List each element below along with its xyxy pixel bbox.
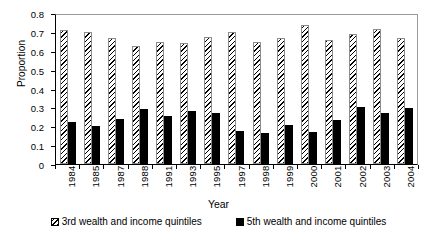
bar-5th-quintile [381, 113, 389, 164]
bar-group [128, 15, 152, 164]
bar-5th-quintile [333, 120, 341, 164]
bar-group [152, 15, 176, 164]
bar-5th-quintile [212, 113, 220, 164]
legend-swatch-solid-icon [236, 218, 244, 226]
bar-3rd-quintile [60, 30, 68, 164]
bar-3rd-quintile [397, 38, 405, 164]
bar-3rd-quintile [349, 34, 357, 164]
plot-area [55, 14, 418, 165]
bar-group [345, 15, 369, 164]
y-tick-label: 0.6 [31, 46, 44, 57]
bar-group [176, 15, 200, 164]
x-tick-label: 2001 [332, 166, 343, 188]
x-axis-title: Year [0, 198, 437, 210]
bar-group [249, 15, 273, 164]
bar-5th-quintile [116, 119, 124, 164]
y-tick-mark [51, 127, 55, 128]
y-tick-label: 0.7 [31, 27, 44, 38]
bar-3rd-quintile [301, 25, 309, 164]
legend-label: 3rd wealth and income quintiles [62, 216, 202, 227]
bar-group [273, 15, 297, 164]
y-tick-label: 0.5 [31, 65, 44, 76]
x-tick-label: 1997 [235, 166, 246, 188]
y-tick-mark [51, 90, 55, 91]
legend-swatch-hatched-icon [51, 218, 59, 226]
bar-group [297, 15, 321, 164]
bar-3rd-quintile [180, 43, 188, 164]
y-tick-label: 0 [39, 160, 44, 171]
bar-3rd-quintile [84, 32, 92, 164]
bar-5th-quintile [357, 107, 365, 164]
x-axis-tick-labels: 1984198519871988199119931995199719981999… [55, 168, 418, 200]
x-tick-label: 1995 [211, 166, 222, 188]
bar-5th-quintile [188, 111, 196, 164]
y-tick-label: 0.1 [31, 141, 44, 152]
x-tick-label: 1988 [138, 166, 149, 188]
bar-group [104, 15, 128, 164]
x-tick-label: 1987 [114, 166, 125, 188]
bar-3rd-quintile [204, 37, 212, 164]
bar-group [321, 15, 345, 164]
bar-3rd-quintile [132, 46, 140, 164]
bar-5th-quintile [309, 132, 317, 164]
x-tick-label: 2000 [308, 166, 319, 188]
bar-3rd-quintile [156, 42, 164, 164]
y-tick-label: 0.4 [31, 84, 44, 95]
bar-group [80, 15, 104, 164]
bar-group [393, 15, 417, 164]
x-tick-label: 1984 [66, 166, 77, 188]
x-tick-label: 2004 [404, 166, 415, 188]
legend-label: 5th wealth and income quintiles [247, 216, 387, 227]
y-tick-mark [51, 165, 55, 166]
chart-container: Proportion 0.80.70.60.50.40.30.20.10 198… [0, 0, 437, 237]
bar-3rd-quintile [253, 42, 261, 164]
bar-5th-quintile [236, 131, 244, 164]
y-tick-mark [51, 71, 55, 72]
x-tick-label: 1998 [259, 166, 270, 188]
legend-item: 5th wealth and income quintiles [236, 216, 387, 227]
bar-3rd-quintile [108, 38, 116, 164]
bar-5th-quintile [261, 133, 269, 164]
bar-groups [56, 15, 417, 164]
bar-3rd-quintile [373, 29, 381, 164]
x-tick-label: 1993 [187, 166, 198, 188]
y-tick-label: 0.3 [31, 103, 44, 114]
chart-legend: 3rd wealth and income quintiles5th wealt… [0, 216, 437, 227]
y-tick-label: 0.2 [31, 122, 44, 133]
x-tick-label: 1999 [283, 166, 294, 188]
bar-5th-quintile [405, 108, 413, 164]
bar-5th-quintile [92, 126, 100, 164]
y-tick-mark [51, 33, 55, 34]
bar-5th-quintile [140, 109, 148, 164]
bar-group [56, 15, 80, 164]
bar-group [369, 15, 393, 164]
y-tick-mark [51, 108, 55, 109]
bar-5th-quintile [164, 116, 172, 164]
bar-3rd-quintile [277, 38, 285, 164]
x-tick-label: 2002 [356, 166, 367, 188]
y-tick-mark [51, 52, 55, 53]
bar-3rd-quintile [325, 40, 333, 164]
bar-5th-quintile [285, 125, 293, 164]
x-tick-label: 1991 [162, 166, 173, 188]
x-tick-label: 2003 [380, 166, 391, 188]
bar-group [224, 15, 248, 164]
x-tick-label: 1985 [90, 166, 101, 188]
y-axis-tick-labels: 0.80.70.60.50.40.30.20.10 [18, 0, 44, 180]
bar-5th-quintile [68, 122, 76, 164]
y-tick-mark [51, 146, 55, 147]
y-tick-mark [51, 14, 55, 15]
legend-item: 3rd wealth and income quintiles [51, 216, 202, 227]
y-tick-label: 0.8 [31, 9, 44, 20]
bar-3rd-quintile [228, 32, 236, 164]
x-tick-mark [418, 165, 419, 169]
bar-group [200, 15, 224, 164]
